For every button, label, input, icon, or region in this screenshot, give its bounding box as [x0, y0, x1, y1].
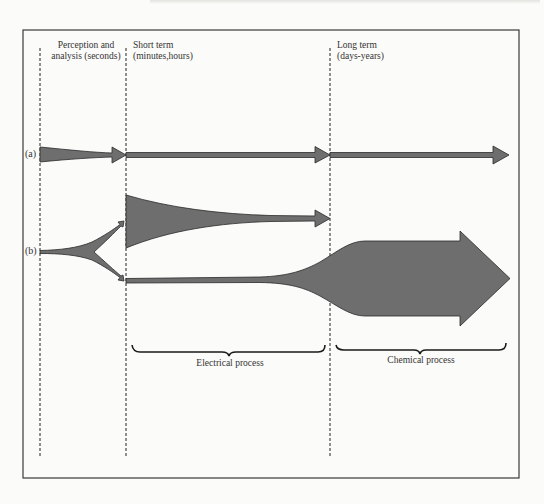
phase-label-long-term: Long term (days-years) — [337, 40, 384, 62]
arrow-b-consolidation — [126, 231, 510, 326]
diagram-canvas: Perception and analysis (seconds) Short … — [0, 0, 544, 504]
phase-label-long-term-line1: Long term — [337, 40, 384, 51]
brace-electrical — [132, 345, 325, 356]
phase-label-short-term: Short term (minutes,hours) — [133, 40, 193, 62]
phase-label-long-term-line2: (days-years) — [337, 51, 384, 62]
phase-label-short-term-line2: (minutes,hours) — [133, 51, 193, 62]
process-label-chemical: Chemical process — [387, 355, 454, 365]
arrow-b-short-term-decay — [126, 195, 330, 248]
phase-label-perception-line1: Perception and — [50, 40, 122, 51]
phase-label-perception: Perception and analysis (seconds) — [50, 40, 122, 62]
row-label-b: (b) — [25, 245, 37, 256]
arrow-a-short-term — [126, 147, 330, 164]
process-label-electrical: Electrical process — [196, 358, 263, 368]
brace-chemical — [336, 343, 506, 354]
arrow-a-perception — [40, 147, 126, 163]
arrow-b-fork — [40, 221, 124, 281]
row-label-a: (a) — [25, 148, 36, 159]
phase-label-short-term-line1: Short term — [133, 40, 193, 51]
diagram-graphics — [0, 0, 544, 504]
arrow-a-long-term — [330, 146, 509, 164]
phase-label-perception-line2: analysis (seconds) — [50, 51, 122, 62]
